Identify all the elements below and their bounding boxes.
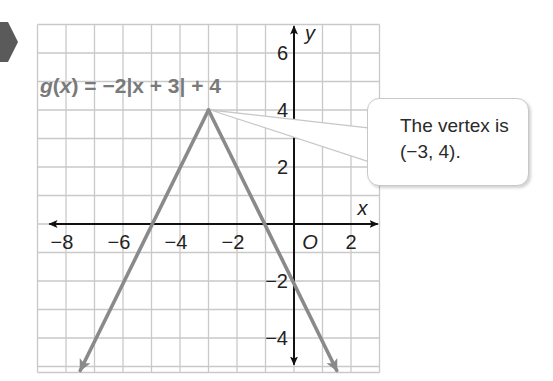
- callout-line-1: The vertex is: [400, 113, 509, 139]
- function-equation: = −2|x + 3| + 4: [84, 74, 221, 97]
- function-label: g(x) = −2|x + 3| + 4: [40, 74, 221, 98]
- origin-label: O: [302, 231, 318, 253]
- x-axis-label: x: [356, 197, 368, 219]
- y-tick-label: 2: [277, 156, 288, 178]
- x-tick-label: −6: [108, 231, 131, 253]
- callout-line-2: (−3, 4).: [400, 139, 509, 165]
- callout-text: The vertex is (−3, 4).: [400, 113, 509, 165]
- vertex-callout: The vertex is (−3, 4).: [367, 98, 529, 186]
- callout-pointer: [211, 110, 371, 162]
- x-tick-label: −2: [222, 231, 245, 253]
- y-tick-label: −2: [265, 270, 288, 292]
- tick-labels: −8−6−4−22642−2−4Oxy: [51, 22, 369, 349]
- x-tick-label: −4: [165, 231, 188, 253]
- x-tick-label: −8: [51, 231, 74, 253]
- graph-left-ray: [80, 110, 208, 371]
- y-axis-label: y: [303, 22, 316, 44]
- y-tick-label: 6: [277, 42, 288, 64]
- y-tick-label: −4: [265, 327, 288, 349]
- coordinate-plane: −8−6−4−22642−2−4Oxy: [0, 0, 553, 381]
- graph-figure: −8−6−4−22642−2−4Oxy g(x) = −2|x + 3| + 4…: [0, 0, 553, 381]
- x-tick-label: 2: [345, 231, 356, 253]
